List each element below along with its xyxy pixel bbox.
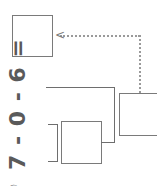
arrow-left-icon: < — [55, 29, 65, 41]
connector-vertical — [114, 87, 115, 143]
math-expression: 7 - 0 - 6 = — [5, 38, 30, 170]
connector-to-intermediate — [101, 142, 115, 143]
connector-from-six — [46, 87, 115, 88]
circled-number-marker: ⑥ — [6, 184, 22, 186]
dotted-connector-horizontal — [60, 35, 140, 37]
bracket-line-vertical — [57, 124, 58, 162]
step-box[interactable] — [119, 93, 157, 136]
bracket-line-bottom — [48, 161, 58, 162]
dotted-connector-vertical — [139, 35, 141, 93]
intermediate-box[interactable] — [61, 121, 102, 164]
